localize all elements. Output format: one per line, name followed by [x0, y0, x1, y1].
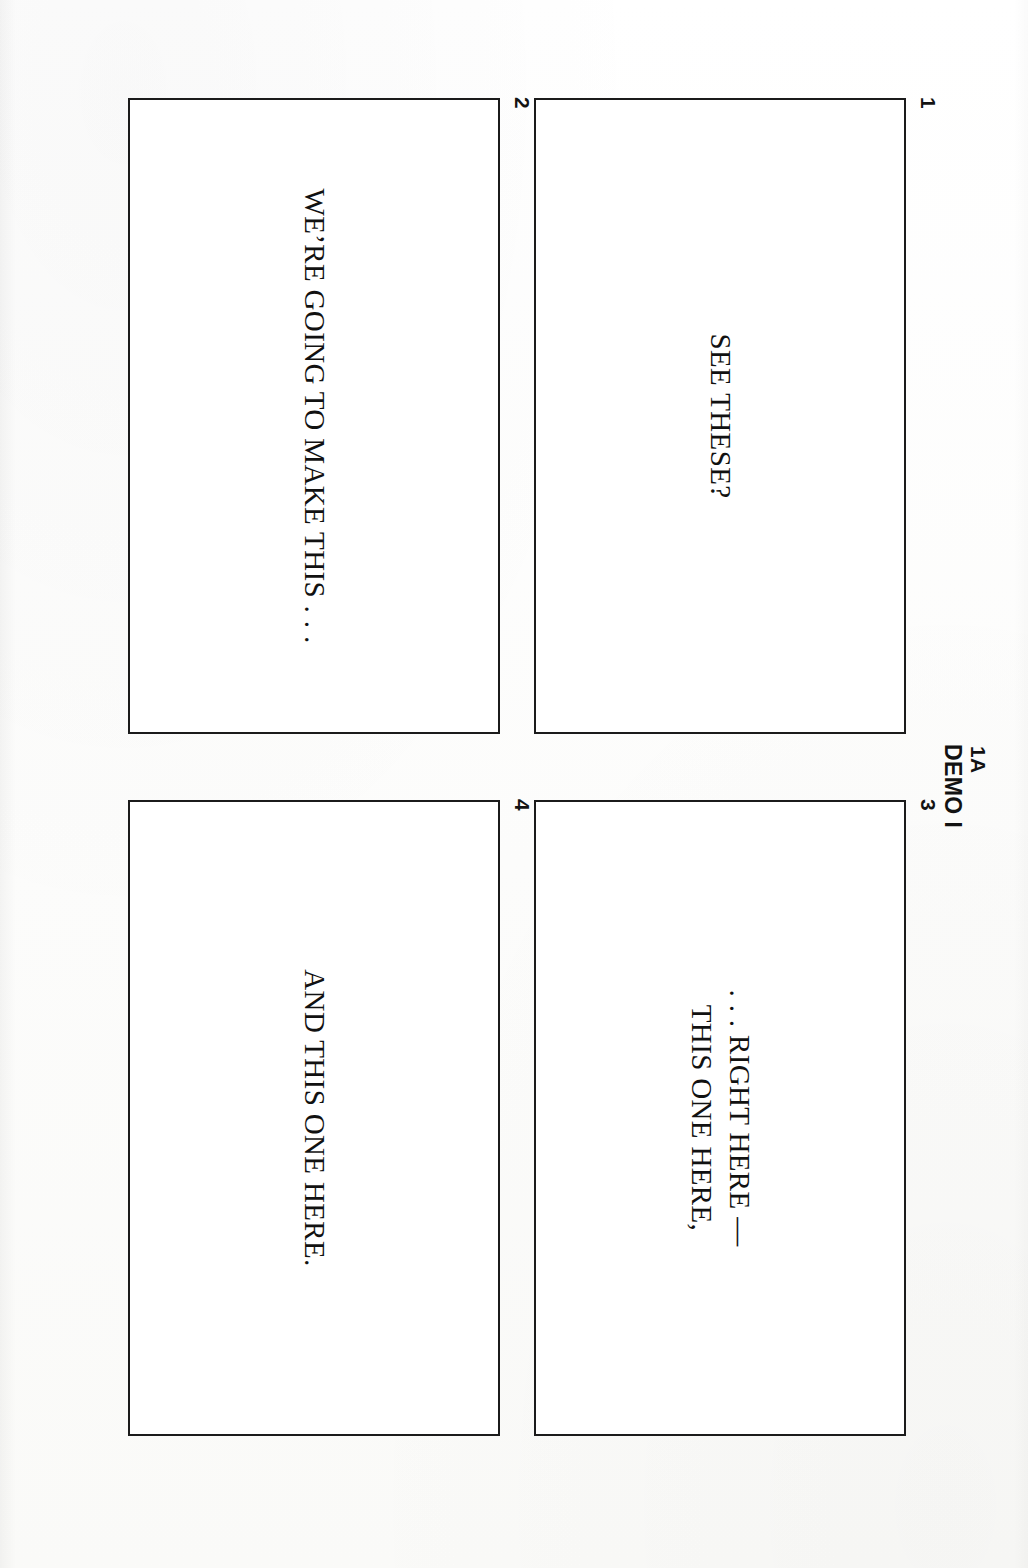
page-code: 1A: [966, 746, 990, 828]
panel-number: 2: [510, 97, 534, 109]
panel-frame: . . . RIGHT HERE — THIS ONE HERE,: [534, 800, 906, 1436]
storyboard-panel-3[interactable]: 3 . . . RIGHT HERE — THIS ONE HERE,: [534, 800, 906, 1436]
panel-caption: SEE THESE?: [701, 100, 739, 732]
panel-frame: SEE THESE?: [534, 98, 906, 734]
storyboard-panel-4[interactable]: 4 AND THIS ONE HERE.: [128, 800, 500, 1436]
panel-caption: . . . RIGHT HERE — THIS ONE HERE,: [682, 802, 757, 1434]
page-header: 1A DEMO I: [939, 744, 990, 828]
storyboard-panel-2[interactable]: 2 WE’RE GOING TO MAKE THIS . . .: [128, 98, 500, 734]
panel-frame: AND THIS ONE HERE.: [128, 800, 500, 1436]
panel-caption: AND THIS ONE HERE.: [295, 802, 333, 1434]
panel-frame: WE’RE GOING TO MAKE THIS . . .: [128, 98, 500, 734]
storyboard-panel-1[interactable]: 1 SEE THESE?: [534, 98, 906, 734]
page-title: DEMO I: [939, 744, 966, 828]
panel-grid: 1 SEE THESE? 2 WE’RE GOING TO MAKE THIS …: [128, 98, 906, 1436]
storyboard-page: 1A DEMO I 1 SEE THESE? 2 WE’RE GOING TO …: [0, 0, 1028, 1568]
panel-number: 4: [510, 799, 534, 811]
storyboard-sheet: 1A DEMO I 1 SEE THESE? 2 WE’RE GOING TO …: [0, 0, 1028, 1568]
panel-number: 1: [916, 97, 940, 109]
panel-number: 3: [916, 799, 940, 811]
panel-caption: WE’RE GOING TO MAKE THIS . . .: [295, 100, 333, 732]
